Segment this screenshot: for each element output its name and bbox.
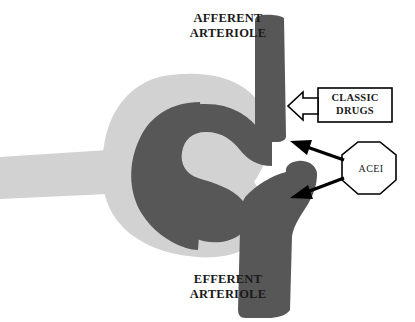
classic-drugs-label: CLASSIC DRUGS [320, 91, 390, 117]
afferent-arteriole-label: AFFERENT ARTERIOLE [168, 11, 288, 41]
renal-arteriole-diagram: AFFERENT ARTERIOLE EFFERENT ARTERIOLE CL… [0, 0, 415, 322]
classic-drugs-arrow-icon [288, 92, 318, 120]
renal-tubule-shape [0, 150, 122, 199]
efferent-arteriole-label: EFFERENT ARTERIOLE [168, 272, 288, 302]
acei-arrow-upper-icon [290, 140, 344, 160]
acei-label: ACEI [348, 163, 394, 175]
